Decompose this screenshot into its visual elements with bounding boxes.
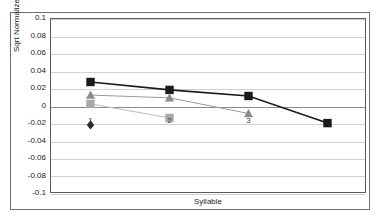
x-axis-title: Syllable [50,197,366,206]
chart-figure: Sqrt Normalized RMS 0.10.080.060.040.020… [0,0,381,224]
data-point-marker [244,92,252,100]
x-axis-category-label: 2 [167,117,171,125]
y-axis-tick-label: 0.1 [2,14,46,22]
y-axis-tick-label: -0.02 [2,119,46,127]
y-axis-tick-label: 0.06 [2,49,46,57]
y-axis-tick-label: 0 [2,102,46,110]
data-point-marker [86,78,94,86]
series-line [91,104,170,118]
plot-area: 123 [50,18,366,193]
data-point-marker [86,100,94,108]
series-line [91,82,328,123]
x-axis-category-label: 1 [88,117,92,125]
data-point-marker [323,119,331,127]
gridline [51,194,365,195]
y-axis-tick-label: -0.06 [2,154,46,162]
series-layer [51,19,367,194]
y-axis-tick-label: -0.08 [2,172,46,180]
y-axis-tick-label: 0.08 [2,32,46,40]
data-point-marker [86,91,95,99]
y-axis-tick-label: -0.1 [2,189,46,197]
y-axis-tick-label: 0.04 [2,67,46,75]
y-axis-tick-label: -0.04 [2,137,46,145]
data-point-marker [165,86,173,94]
y-axis-tick-label: 0.02 [2,84,46,92]
x-axis-category-label: 3 [246,117,250,125]
y-axis-tick-labels: 0.10.080.060.040.020-0.02-0.04-0.06-0.08… [0,18,46,193]
